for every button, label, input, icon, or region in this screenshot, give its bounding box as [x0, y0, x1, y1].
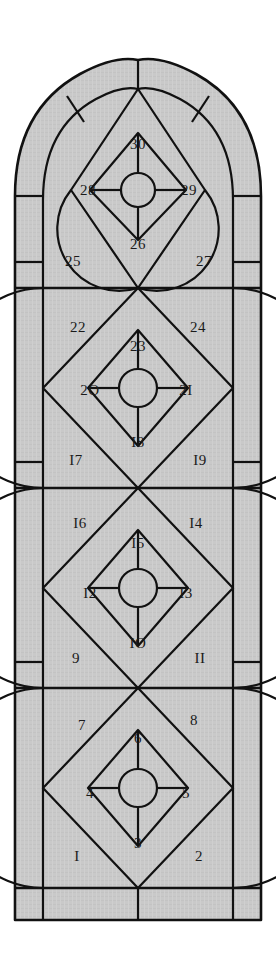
pane-label-9: 9 — [72, 650, 80, 666]
pane-label-3: 3 — [134, 835, 142, 851]
window-drawing: I23456789IOIII2I3I4I5I6I7I8I92O2I2223242… — [0, 0, 276, 973]
pane-label-22: 22 — [70, 319, 86, 335]
pane-label-21: 2I — [179, 382, 193, 398]
pane-label-30: 30 — [130, 136, 146, 152]
pane-label-27: 27 — [196, 253, 212, 269]
pane-label-17: I7 — [69, 452, 83, 468]
pane-label-10: IO — [130, 635, 147, 651]
pane-label-5: 5 — [182, 785, 190, 801]
pane-label-19: I9 — [193, 452, 207, 468]
pane-label-13: I3 — [179, 585, 193, 601]
pane-label-16: I6 — [73, 515, 87, 531]
pane-label-2: 2 — [195, 848, 203, 864]
pane-label-18: I8 — [131, 434, 145, 450]
pane-label-20: 2O — [80, 382, 99, 398]
pane-label-24: 24 — [190, 319, 206, 335]
pane-label-26: 26 — [130, 236, 146, 252]
pane-label-23: 23 — [130, 338, 146, 354]
pane-label-8: 8 — [190, 712, 198, 728]
pane-label-15: I5 — [131, 535, 145, 551]
pane-label-6: 6 — [134, 730, 142, 746]
pane-label-1: I — [74, 848, 80, 864]
pane-label-29: 29 — [181, 182, 197, 198]
pane-label-4: 4 — [86, 785, 94, 801]
pane-label-7: 7 — [78, 717, 86, 733]
pane-label-12: I2 — [83, 585, 97, 601]
pane-label-25: 25 — [65, 253, 81, 269]
pane-label-11: II — [195, 650, 206, 666]
pane-label-28: 28 — [80, 182, 96, 198]
stained-glass-window-diagram: I23456789IOIII2I3I4I5I6I7I8I92O2I2223242… — [0, 0, 276, 973]
pane-label-14: I4 — [189, 515, 203, 531]
